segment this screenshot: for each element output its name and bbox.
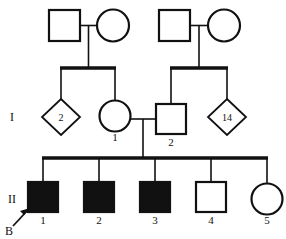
symbol-founder1-male bbox=[49, 10, 80, 41]
label-II-4: 4 bbox=[208, 214, 214, 226]
generation-label-II: II bbox=[8, 192, 16, 206]
label-II-1: 1 bbox=[40, 214, 46, 226]
pedigree-chart: 2 1 2 14 1 2 3 4 5 I bbox=[0, 0, 286, 239]
symbol-II-2-male-affected bbox=[84, 182, 114, 212]
label-II-3: 3 bbox=[152, 214, 158, 226]
symbol-founder2-female bbox=[208, 10, 240, 42]
pedigree-svg: 2 1 2 14 1 2 3 4 5 I bbox=[0, 0, 286, 239]
generation-label-I: I bbox=[10, 110, 14, 124]
label-II-2: 2 bbox=[96, 214, 102, 226]
symbol-founder2-male bbox=[159, 10, 190, 41]
sibship-count-left: 2 bbox=[59, 112, 64, 123]
symbol-founder1-female bbox=[97, 10, 129, 42]
symbol-I-1-female bbox=[100, 101, 131, 132]
symbol-II-5-female bbox=[252, 184, 283, 215]
label-I-1: 1 bbox=[112, 131, 118, 143]
sibship-count-right: 14 bbox=[222, 112, 232, 123]
symbol-II-3-male-affected bbox=[140, 182, 170, 212]
symbol-II-4-male bbox=[196, 182, 226, 212]
label-II-5: 5 bbox=[264, 214, 270, 226]
symbol-II-1-male-affected bbox=[28, 182, 58, 212]
symbol-I-2-male bbox=[156, 104, 186, 134]
label-I-2: 2 bbox=[168, 136, 174, 148]
panel-label: B bbox=[5, 224, 13, 238]
